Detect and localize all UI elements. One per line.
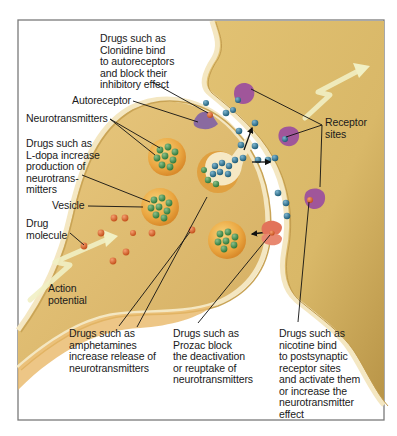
label-amphetamines: Drugs such as amphetamines increase rele… bbox=[69, 328, 156, 374]
label-autoreceptor: Autoreceptor bbox=[72, 95, 131, 107]
label-prozac: Drugs such as Prozac block the deactivat… bbox=[173, 328, 253, 386]
vesicle-lower bbox=[208, 221, 246, 259]
label-nicotine: Drugs such as nicotine bind to postsynap… bbox=[279, 328, 360, 420]
label-ldopa: Drugs such as L-dopa increase production… bbox=[26, 138, 100, 196]
label-action-potential: Action potential bbox=[48, 283, 87, 306]
label-drug-molecule: Drug molecule bbox=[26, 218, 67, 241]
vesicle-top bbox=[148, 138, 186, 176]
label-neurotransmitters: Neurotransmitters bbox=[26, 113, 108, 125]
label-clonidine: Drugs such as Clonidine bind to autorece… bbox=[100, 33, 174, 91]
label-vesicle: Vesicle bbox=[52, 200, 85, 212]
vesicle-middle bbox=[141, 188, 179, 226]
label-receptor-sites: Receptor sites bbox=[325, 117, 367, 140]
